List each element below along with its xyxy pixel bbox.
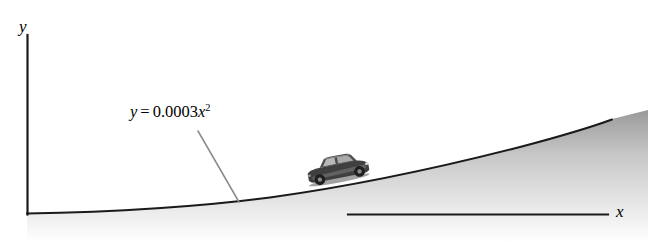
equation-annotation: y=0.0003x2	[130, 104, 211, 121]
x-axis-label: x	[616, 203, 624, 220]
figure-canvas	[0, 0, 648, 242]
equation-operator: =	[137, 102, 152, 121]
y-axis-label: y	[19, 18, 27, 35]
equation-exponent: 2	[205, 102, 210, 113]
equation-coefficient: 0.0003	[153, 102, 198, 121]
equation-leader-line	[198, 131, 239, 202]
hill-fill	[27, 110, 648, 242]
parabolic-road-figure: y x y=0.0003x2	[0, 0, 648, 242]
